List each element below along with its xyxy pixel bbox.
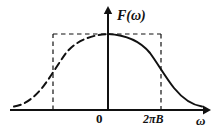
- x-axis-label: ω: [196, 114, 205, 127]
- x-axis: [10, 106, 211, 115]
- spectrum-curve-left-dashed: [14, 34, 108, 107]
- y-axis-label: F(ω): [117, 9, 146, 23]
- y-axis-arrow-icon: [104, 6, 112, 14]
- origin-label: 0: [96, 112, 103, 125]
- spectrum-curve-right-solid: [108, 34, 202, 107]
- plot-canvas: [0, 0, 222, 133]
- figure-spectrum-plot: F(ω) ω 0 2πB: [0, 0, 222, 133]
- cutoff-frequency-label: 2πB: [143, 113, 164, 125]
- y-axis: [104, 6, 112, 110]
